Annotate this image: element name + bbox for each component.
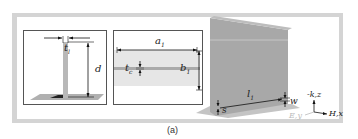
label-l1: l1 — [247, 89, 254, 101]
label-s: s — [222, 106, 227, 115]
axis-k-label: -k,z — [307, 91, 321, 99]
figure-caption: (a) — [167, 125, 178, 135]
axis-h-label: H,x — [329, 110, 343, 118]
perspective-drawing — [0, 0, 358, 139]
axis-e-label: E,y — [289, 112, 302, 120]
label-w: w — [290, 97, 298, 106]
